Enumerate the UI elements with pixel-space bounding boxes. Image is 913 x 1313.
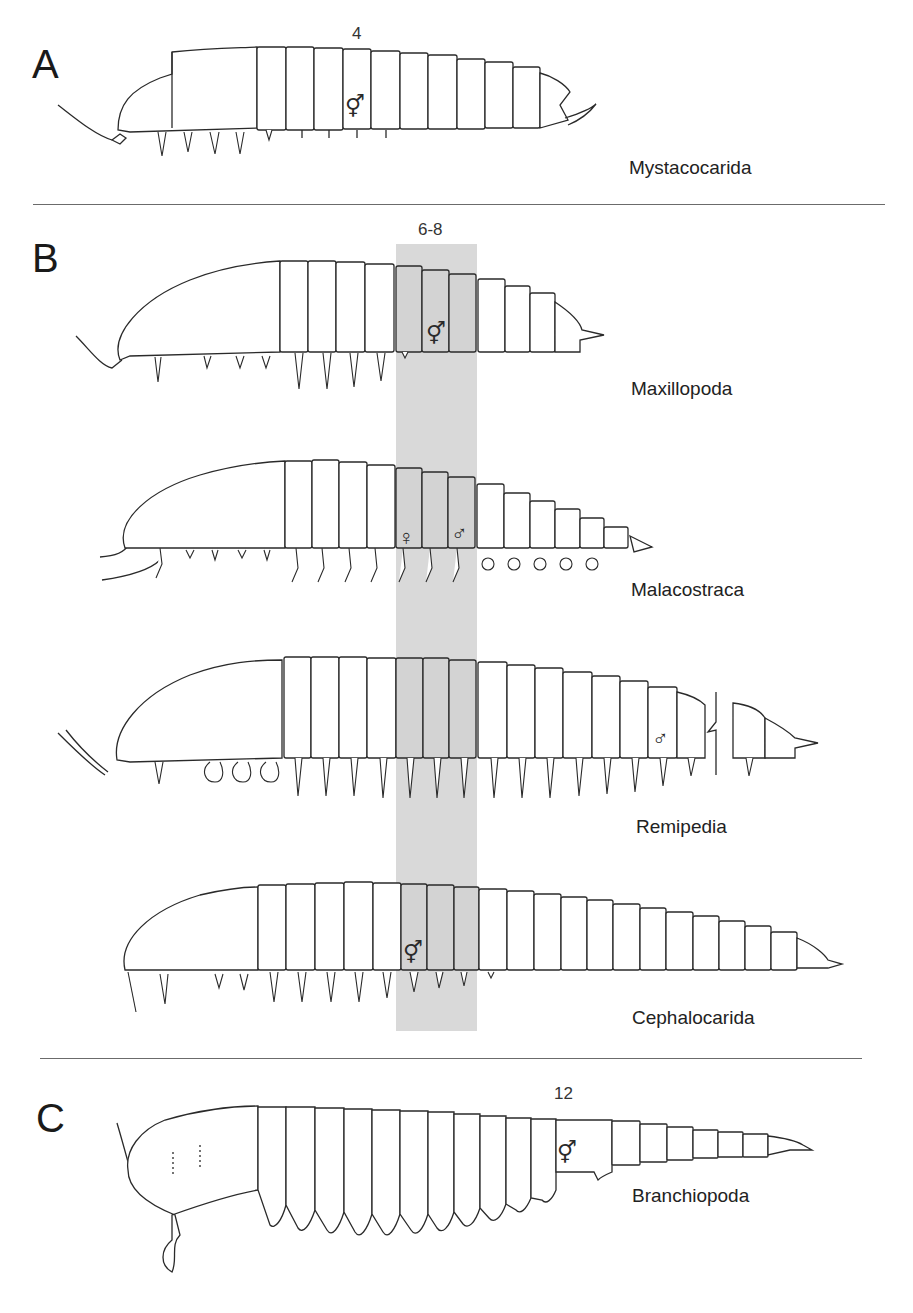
body-segments-b4 [258, 882, 842, 970]
limbs-b2 [156, 548, 598, 582]
gonopore-symbol-female-b2: ♀ [398, 525, 415, 550]
maxillopoda-illustration: ⚥ [76, 261, 604, 389]
limbs-b3 [155, 758, 753, 798]
branchiopoda-illustration: ⚥ [117, 1106, 812, 1272]
limbs-b1 [155, 352, 408, 389]
remipedia-illustration: ♂ [58, 657, 818, 798]
gonopore-symbol-a: ⚥ [345, 93, 365, 119]
malacostraca-illustration: ♀ ♂ [100, 460, 652, 582]
gonopore-symbol-b3: ♂ [652, 726, 669, 751]
body-segments-c [258, 1107, 812, 1235]
gonopore-symbol-c: ⚥ [557, 1139, 577, 1165]
body-segments-a [257, 47, 596, 130]
gonopore-symbol-b1: ⚥ [426, 320, 446, 346]
gonopore-symbol-b4: ⚥ [403, 939, 423, 965]
limbs-a [158, 130, 386, 156]
mystacocarida-illustration: ⚥ [58, 47, 596, 156]
limbs-b4 [128, 972, 494, 1012]
cephalocarida-illustration: ⚥ [124, 882, 842, 1012]
gonopore-symbol-male-b2: ♂ [451, 521, 468, 546]
